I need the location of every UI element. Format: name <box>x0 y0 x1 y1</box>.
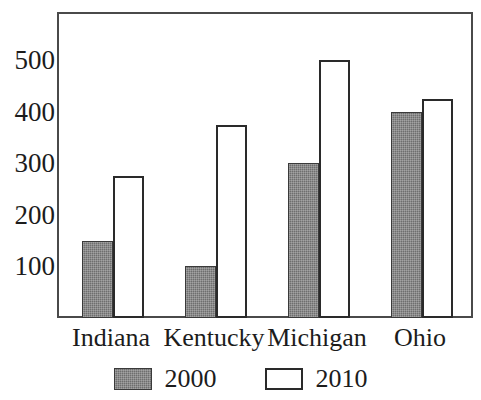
bar-kentucky-2000 <box>185 266 216 318</box>
bar-ohio-2010 <box>422 99 453 318</box>
x-axis-labels: Indiana Kentucky Michigan Ohio <box>57 322 473 356</box>
legend-swatch-2000-icon <box>114 368 152 390</box>
y-tick-label-400: 400 <box>3 98 55 125</box>
legend-label-2010: 2010 <box>316 366 368 392</box>
bar-indiana-2010 <box>113 176 144 318</box>
bar-michigan-2000 <box>288 163 319 318</box>
x-tick-label-ohio: Ohio <box>394 322 446 354</box>
x-tick-label-michigan: Michigan <box>267 322 367 354</box>
y-tick-label-300: 300 <box>3 150 55 177</box>
y-tick-label-200: 200 <box>3 201 55 228</box>
bar-michigan-2010 <box>319 60 350 318</box>
x-tick-label-indiana: Indiana <box>72 322 150 354</box>
x-tick-label-kentucky: Kentucky <box>163 322 264 354</box>
legend-label-2000: 2000 <box>165 366 217 392</box>
bar-ohio-2000 <box>391 112 422 318</box>
chart-legend: 2000 2010 <box>0 362 481 396</box>
y-axis-labels: 500 400 300 200 100 <box>0 0 55 400</box>
legend-entry-2000: 2000 <box>114 366 217 392</box>
bar-chart: 500 400 300 200 100 Indiana Kentucky Mic… <box>0 0 481 400</box>
y-tick-label-500: 500 <box>3 47 55 74</box>
y-tick-label-100: 100 <box>3 253 55 280</box>
bar-indiana-2000 <box>82 241 113 318</box>
legend-entry-2010: 2010 <box>265 366 368 392</box>
plot-area <box>59 14 471 318</box>
bar-kentucky-2010 <box>216 125 247 318</box>
legend-swatch-2010-icon <box>265 368 303 390</box>
